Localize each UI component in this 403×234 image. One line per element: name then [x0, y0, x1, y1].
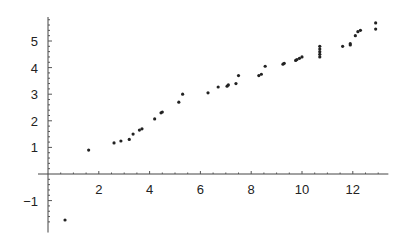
data-point: [119, 139, 122, 142]
data-point: [131, 133, 134, 136]
y-tick-label: 4: [31, 61, 38, 76]
data-point: [260, 73, 263, 76]
x-tick-label: 4: [146, 182, 153, 197]
y-tick-label: 1: [31, 140, 38, 155]
axes: [38, 17, 388, 233]
data-point: [237, 74, 240, 77]
data-point: [349, 42, 352, 45]
scatter-chart: 24681012−112345: [0, 0, 403, 234]
data-point: [341, 45, 344, 48]
data-point: [374, 27, 377, 30]
data-point: [359, 29, 362, 32]
x-tick-label: 2: [95, 182, 102, 197]
data-point: [140, 127, 143, 130]
data-point: [177, 101, 180, 104]
data-point: [227, 83, 230, 86]
data-point: [153, 117, 156, 120]
y-tick-label: 5: [31, 34, 38, 49]
data-point: [161, 110, 164, 113]
data-point: [112, 141, 115, 144]
x-tick-label: 10: [295, 182, 309, 197]
data-point: [264, 65, 267, 68]
x-tick-label: 6: [197, 182, 204, 197]
data-point: [181, 93, 184, 96]
data-point: [206, 91, 209, 94]
data-point: [128, 138, 131, 141]
data-point: [63, 218, 66, 221]
tick-labels: 24681012−112345: [23, 34, 360, 209]
data-point: [354, 34, 357, 37]
data-point: [283, 62, 286, 65]
x-tick-label: 8: [248, 182, 255, 197]
data-point: [234, 82, 237, 85]
x-tick-label: 12: [346, 182, 360, 197]
y-tick-label: −1: [23, 194, 38, 209]
y-tick-label: 2: [31, 114, 38, 129]
data-point: [87, 148, 90, 151]
data-point: [300, 55, 303, 58]
data-point: [318, 45, 321, 48]
data-points: [63, 21, 377, 221]
data-point: [374, 21, 377, 24]
data-point: [217, 85, 220, 88]
y-tick-label: 3: [31, 87, 38, 102]
